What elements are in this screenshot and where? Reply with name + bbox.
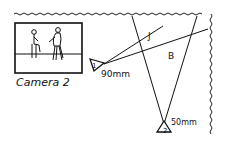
camera-1-focal-length: 90mm (101, 69, 130, 79)
camera-view-caption: Camera 2 (16, 76, 70, 89)
camera-2-number: 2 (163, 127, 167, 135)
camera-2-focal-length: 50mm (171, 118, 197, 127)
zone-label-j: J (148, 31, 151, 41)
wavy-border-top (14, 13, 202, 15)
zone-label-b: B (168, 51, 174, 61)
camera-blocking-diagram: Camera 2 1 90mm 2 50mm J B (0, 0, 228, 147)
camera-2-sightlines (132, 16, 197, 124)
wavy-border-right (210, 14, 212, 134)
camera-view-frame (15, 23, 82, 73)
camera-1-number: 1 (92, 62, 96, 70)
